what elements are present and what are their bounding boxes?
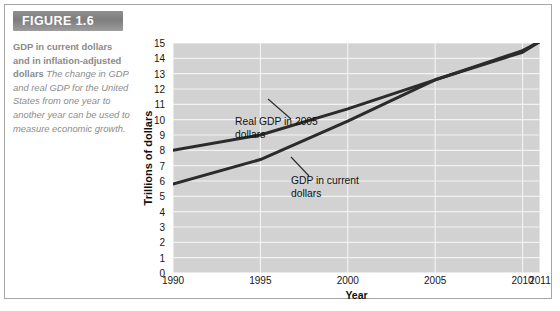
y-axis-tick-labels: 0123456789101112131415 [135, 43, 169, 273]
y-axis-tick-4: 4 [159, 206, 165, 217]
y-axis-tick-7: 7 [159, 160, 165, 171]
y-axis-tick-1: 1 [159, 252, 165, 263]
annotation-current-gdp: GDP in current dollars [291, 174, 359, 200]
horizontal-gridlines [173, 43, 540, 273]
x-axis-tick-2000: 2000 [337, 275, 359, 286]
y-axis-tick-9: 9 [159, 130, 165, 141]
annotation-real-gdp-line2: dollars [235, 128, 318, 141]
y-axis-tick-8: 8 [159, 145, 165, 156]
y-axis-tick-2: 2 [159, 237, 165, 248]
vertical-gridlines [173, 43, 540, 273]
series-line [173, 43, 540, 150]
y-axis-tick-15: 15 [154, 38, 165, 49]
x-axis-tick-2011: 2011 [529, 275, 551, 286]
plot-svg [173, 43, 540, 273]
figure-caption-text: GDP in current dollars and in inflation-… [13, 40, 131, 135]
annotation-real-gdp-line1: Real GDP in 2005 [235, 115, 318, 128]
x-axis-tick-1995: 1995 [249, 275, 271, 286]
figure-number-label: FIGURE 1.6 [22, 14, 94, 28]
x-axis-tick-1990: 1990 [162, 275, 184, 286]
y-axis-tick-5: 5 [159, 191, 165, 202]
data-series-lines [173, 43, 540, 184]
annotation-current-gdp-line2: dollars [291, 187, 359, 200]
chart: Trillions of dollars 0123456789101112131… [135, 13, 547, 295]
series-line [173, 43, 540, 184]
figure-number-badge: FIGURE 1.6 [13, 11, 123, 31]
y-axis-tick-6: 6 [159, 176, 165, 187]
x-axis-tick-2005: 2005 [424, 275, 446, 286]
annotation-real-gdp: Real GDP in 2005 dollars [235, 115, 318, 141]
y-axis-tick-12: 12 [154, 84, 165, 95]
y-axis-tick-10: 10 [154, 114, 165, 125]
y-axis-tick-11: 11 [155, 99, 165, 110]
y-axis-tick-14: 14 [154, 53, 165, 64]
y-axis-tick-3: 3 [159, 222, 165, 233]
y-axis-tick-13: 13 [154, 68, 165, 79]
figure-caption-column: FIGURE 1.6 GDP in current dollars and in… [13, 11, 135, 291]
x-axis-title: Year [173, 289, 540, 301]
annotation-current-gdp-line1: GDP in current [291, 174, 359, 187]
figure-frame: FIGURE 1.6 GDP in current dollars and in… [4, 4, 552, 299]
plot-area: Real GDP in 2005 dollars GDP in current … [173, 43, 540, 273]
